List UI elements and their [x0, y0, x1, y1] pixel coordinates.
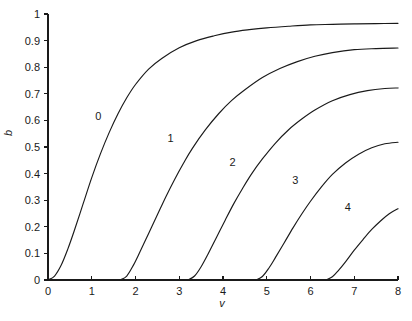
y-axis-tick-label: 1 — [34, 8, 40, 20]
y-axis-tick-label: 0.7 — [25, 88, 40, 100]
curve-label-4: 4 — [345, 201, 351, 213]
y-axis: 00.10.20.30.40.50.60.70.80.91 — [25, 8, 48, 286]
data-curve-0 — [48, 23, 398, 280]
x-axis-tick-label: 2 — [132, 285, 138, 297]
y-axis-tick-label: 0.2 — [25, 221, 40, 233]
curve-labels: 01234 — [95, 110, 351, 212]
y-axis-tick-label: 0.1 — [25, 247, 40, 259]
x-axis: 012345678 — [45, 276, 401, 297]
x-axis-title: v — [219, 297, 226, 309]
y-axis-tick-label: 0.5 — [25, 141, 40, 153]
data-curve-3 — [256, 142, 398, 280]
y-axis-tick-label: 0.4 — [25, 168, 40, 180]
data-curves — [48, 23, 398, 280]
y-axis-title: b — [2, 130, 14, 136]
y-axis-tick-label: 0.9 — [25, 35, 40, 47]
x-axis-tick-label: 1 — [89, 285, 95, 297]
curve-label-3: 3 — [292, 174, 298, 186]
x-axis-tick-label: 8 — [395, 285, 401, 297]
y-axis-tick-label: 0 — [34, 274, 40, 286]
chart-figure: 00.10.20.30.40.50.60.70.80.91 012345678 … — [0, 0, 412, 321]
curve-label-2: 2 — [230, 156, 236, 168]
y-axis-tick-label: 0.3 — [25, 194, 40, 206]
y-axis-tick-label: 0.8 — [25, 61, 40, 73]
x-axis-tick-label: 3 — [176, 285, 182, 297]
line-chart-plot: 00.10.20.30.40.50.60.70.80.91 012345678 … — [0, 0, 412, 321]
y-axis-tick-label: 0.6 — [25, 114, 40, 126]
x-axis-tick-label: 5 — [264, 285, 270, 297]
data-curve-4 — [326, 209, 398, 280]
curve-label-1: 1 — [167, 132, 173, 144]
x-axis-tick-label: 0 — [45, 285, 51, 297]
x-axis-tick-label: 4 — [220, 285, 226, 297]
curve-label-0: 0 — [95, 110, 101, 122]
x-axis-tick-label: 7 — [351, 285, 357, 297]
x-axis-tick-label: 6 — [307, 285, 313, 297]
